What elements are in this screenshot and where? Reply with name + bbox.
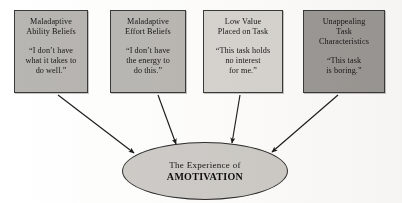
arrow-task-to-amotivation	[272, 95, 338, 152]
box-quote: “This task is boring.”	[326, 56, 361, 76]
arrow-effort-to-amotivation	[158, 95, 176, 144]
arrow-value-to-amotivation	[232, 95, 240, 143]
box-quote: “This task holds no interest for me.”	[216, 46, 271, 76]
box-unappealing-task-characteristics: Unappealing Task Characteristics “This t…	[303, 10, 385, 93]
box-maladaptive-effort-beliefs: Maladaptive Effort Beliefs “I don’t have…	[110, 10, 186, 93]
ellipse-label-line2: AMOTIVATION	[167, 171, 243, 183]
amotivation-diagram: Maladaptive Ability Beliefs “I don’t hav…	[0, 0, 402, 203]
box-title: Maladaptive Ability Beliefs	[26, 17, 76, 37]
ellipse-label-line1: The Experience of	[169, 160, 241, 171]
box-title: Low Value Placed on Task	[218, 17, 268, 37]
box-quote: “I don’t have what it takes to do well.”	[25, 46, 76, 76]
box-title: Unappealing Task Characteristics	[319, 17, 369, 47]
arrow-ability-to-amotivation	[58, 95, 134, 153]
box-maladaptive-ability-beliefs: Maladaptive Ability Beliefs “I don’t hav…	[14, 10, 88, 93]
box-title: Maladaptive Effort Beliefs	[125, 17, 171, 37]
box-quote: “I don’t have the energy to do this.”	[126, 46, 170, 76]
box-low-value-placed-on-task: Low Value Placed on Task “This task hold…	[203, 10, 283, 93]
ellipse-experience-of-amotivation: The Experience of AMOTIVATION	[122, 142, 288, 200]
